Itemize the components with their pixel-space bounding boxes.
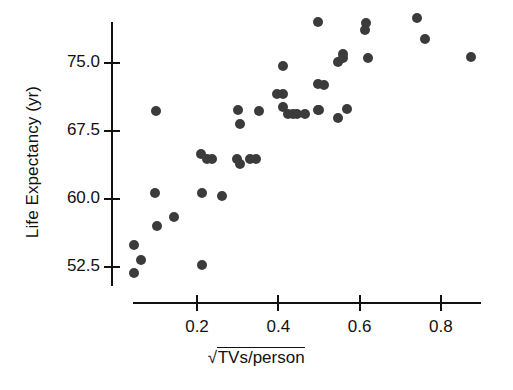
scatter-point: [235, 159, 245, 169]
scatter-point: [342, 104, 352, 114]
radical-sign-icon: √: [208, 348, 217, 367]
scatter-point: [412, 13, 422, 23]
scatter-point: [360, 25, 370, 35]
scatter-chart: Life Expectancy (yr) 52.560.067.575.0 0.…: [0, 0, 513, 390]
scatter-point: [151, 106, 161, 116]
scatter-point: [278, 61, 288, 71]
scatter-point: [338, 53, 348, 63]
scatter-point: [129, 240, 139, 250]
scatter-point: [319, 80, 329, 90]
scatter-point: [197, 188, 207, 198]
scatter-points-layer: [0, 0, 513, 390]
scatter-point: [300, 109, 310, 119]
scatter-point: [152, 221, 162, 231]
scatter-point: [333, 113, 343, 123]
scatter-point: [313, 17, 323, 27]
scatter-point: [129, 268, 139, 278]
scatter-point: [197, 260, 207, 270]
scatter-point: [207, 154, 217, 164]
scatter-point: [169, 212, 179, 222]
scatter-point: [314, 105, 324, 115]
x-axis-label: √TVs/person: [0, 348, 513, 368]
scatter-point: [233, 105, 243, 115]
scatter-point: [150, 188, 160, 198]
scatter-point: [217, 191, 227, 201]
scatter-point: [420, 34, 430, 44]
scatter-point: [466, 52, 476, 62]
scatter-point: [278, 89, 288, 99]
scatter-point: [136, 255, 146, 265]
x-axis-label-radicand: TVs/person: [217, 347, 305, 367]
scatter-point: [254, 106, 264, 116]
scatter-point: [363, 53, 373, 63]
scatter-point: [235, 119, 245, 129]
scatter-point: [251, 154, 261, 164]
